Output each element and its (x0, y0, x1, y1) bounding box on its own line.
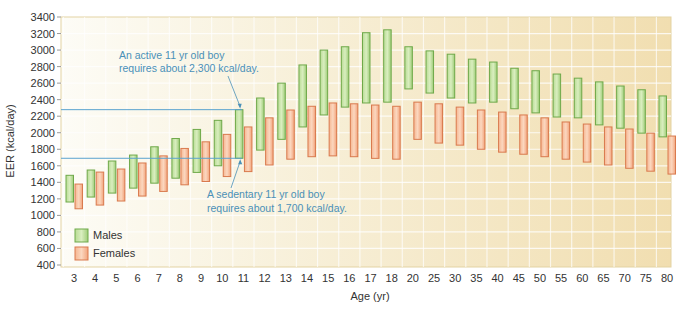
y-tick-label: 600 (37, 242, 55, 254)
female-range-bar (456, 107, 464, 145)
male-range-bar (447, 54, 455, 98)
eer-chart: 4006008001000120014001600180020002200240… (0, 0, 682, 311)
legend-males-swatch (75, 229, 88, 242)
male-range-bar (193, 129, 201, 172)
x-tick-label: 25 (428, 272, 440, 284)
male-range-bar (151, 147, 159, 183)
male-range-bar (638, 90, 646, 133)
x-tick-label: 15 (322, 272, 334, 284)
female-range-bar (626, 129, 634, 168)
x-tick-label: 13 (280, 272, 292, 284)
x-tick-label: 12 (258, 272, 270, 284)
y-tick-label: 1800 (31, 143, 55, 155)
female-range-bar (541, 118, 549, 157)
female-range-bar (308, 106, 316, 156)
female-range-bar (139, 163, 147, 196)
female-range-bar (647, 133, 655, 171)
male-range-bar (87, 170, 95, 197)
female-range-bar (160, 156, 168, 192)
x-tick-label: 70 (619, 272, 631, 284)
female-range-bar (477, 110, 485, 149)
y-axis: 4006008001000120014001600180020002200240… (31, 11, 61, 271)
y-tick-label: 2000 (31, 127, 55, 139)
female-range-bar (117, 169, 125, 201)
y-axis-title: EER (kcal/day) (4, 104, 16, 177)
x-tick-label: 30 (449, 272, 461, 284)
x-axis: 3456789101112131415161718202530354045505… (71, 272, 673, 284)
female-range-bar (350, 104, 358, 157)
male-range-bar (214, 120, 222, 165)
female-range-bar (520, 115, 528, 154)
x-tick-label: 65 (597, 272, 609, 284)
male-range-bar (617, 86, 625, 128)
y-tick-label: 1000 (31, 209, 55, 221)
male-range-bar (511, 68, 519, 109)
female-range-bar (499, 112, 507, 152)
x-tick-label: 5 (113, 272, 119, 284)
female-range-bar (414, 102, 422, 139)
male-range-bar (574, 78, 582, 118)
male-range-bar (363, 33, 371, 103)
female-range-bar (75, 184, 83, 209)
female-range-bar (604, 127, 612, 165)
male-range-bar (426, 51, 434, 93)
y-tick-label: 3200 (31, 28, 55, 40)
male-range-bar (532, 71, 540, 113)
male-range-bar (405, 47, 413, 89)
male-range-bar (130, 155, 138, 188)
x-axis-title: Age (yr) (350, 290, 389, 302)
female-range-bar (435, 104, 443, 143)
x-tick-label: 50 (534, 272, 546, 284)
male-range-bar (235, 110, 243, 159)
y-tick-label: 1200 (31, 193, 55, 205)
x-tick-label: 55 (555, 272, 567, 284)
legend-males-label: Males (93, 229, 123, 241)
x-tick-label: 16 (343, 272, 355, 284)
female-range-bar (202, 142, 210, 182)
female-range-bar (562, 122, 570, 159)
x-tick-label: 80 (661, 272, 673, 284)
male-range-bar (468, 59, 476, 103)
male-range-bar (341, 47, 349, 107)
female-range-bar (287, 110, 295, 159)
male-range-bar (108, 161, 116, 193)
female-range-bar (181, 148, 189, 184)
y-tick-label: 800 (37, 226, 55, 238)
x-tick-label: 4 (92, 272, 98, 284)
female-range-bar (668, 136, 676, 174)
y-tick-label: 2800 (31, 61, 55, 73)
male-range-bar (659, 96, 667, 137)
x-tick-label: 11 (238, 272, 249, 284)
annotation-sedentary-line1: A sedentary 11 yr old boy (207, 188, 325, 200)
y-tick-label: 2400 (31, 94, 55, 106)
y-tick-label: 2200 (31, 110, 55, 122)
annotation-active-line2: requires about 2,300 kcal/day. (119, 62, 259, 74)
female-range-bar (223, 134, 231, 176)
female-range-bar (244, 127, 252, 172)
male-range-bar (66, 175, 74, 202)
male-range-bar (257, 98, 265, 150)
x-tick-label: 7 (156, 272, 162, 284)
x-tick-label: 35 (470, 272, 482, 284)
y-tick-label: 2600 (31, 77, 55, 89)
y-tick-label: 3000 (31, 44, 55, 56)
male-range-bar (299, 65, 307, 127)
female-range-bar (393, 106, 401, 159)
y-tick-label: 400 (37, 259, 55, 271)
female-range-bar (96, 172, 104, 205)
male-range-bar (595, 82, 603, 125)
x-tick-label: 9 (198, 272, 204, 284)
male-range-bar (553, 74, 561, 117)
female-range-bar (372, 105, 380, 158)
annotation-active-line1: An active 11 yr old boy (119, 49, 225, 61)
x-tick-label: 75 (640, 272, 652, 284)
y-tick-label: 1400 (31, 176, 55, 188)
male-range-bar (278, 83, 286, 139)
x-tick-label: 6 (134, 272, 140, 284)
x-tick-label: 18 (386, 272, 398, 284)
male-range-bar (320, 50, 328, 115)
x-tick-label: 8 (177, 272, 183, 284)
legend-females-swatch (75, 247, 88, 260)
x-tick-label: 40 (491, 272, 503, 284)
female-range-bar (329, 103, 337, 156)
